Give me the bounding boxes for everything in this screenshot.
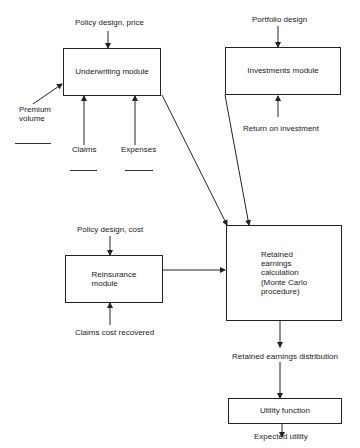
node-utility-function: Utility function: [228, 398, 342, 424]
blank-line-expenses: [125, 170, 153, 171]
node-investments-module: Investments module: [225, 47, 341, 95]
label-expenses: Expenses: [121, 145, 156, 154]
node-underwriting-module: Underwriting module: [63, 48, 161, 96]
label-claims: Claims: [72, 145, 96, 154]
label-expected-utility: Expected utility: [254, 432, 308, 441]
label-claims-cost-recovered: Claims cost recovered: [75, 328, 154, 337]
label-policy-design-cost: Policy design, cost: [77, 225, 143, 234]
label-return-on-investment: Return on investment: [243, 124, 319, 133]
label-portfolio-design: Portfolio design: [252, 15, 307, 24]
blank-line-premium: [15, 143, 51, 144]
node-reinsurance-module: Reinsurance module: [65, 255, 163, 303]
label-policy-design-price: Policy design, price: [75, 18, 144, 27]
label-retained-earnings-distribution: Retained earnings distribution: [232, 352, 338, 361]
blank-line-claims: [70, 170, 97, 171]
label-premium-volume: Premium volume: [19, 105, 59, 123]
node-retained-earnings-calculation: Retained earnings calculation (Monte Car…: [226, 225, 342, 321]
